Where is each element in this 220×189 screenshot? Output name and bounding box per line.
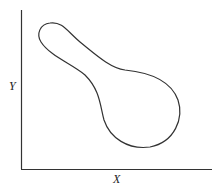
- contour-shape: [39, 23, 180, 148]
- plot-area: [0, 0, 220, 189]
- x-axis-label: X: [113, 172, 120, 187]
- y-axis-label: Y: [9, 79, 16, 94]
- diagram: Y X: [0, 0, 220, 189]
